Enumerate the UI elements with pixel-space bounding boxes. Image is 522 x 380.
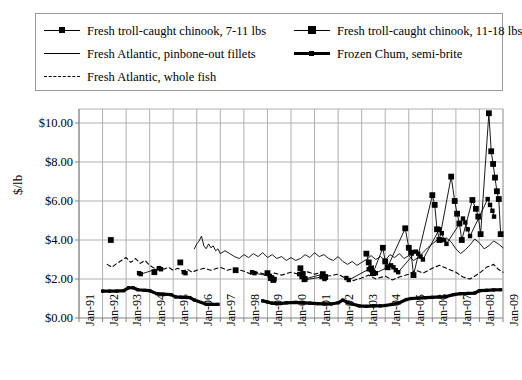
x-tick-label: Jan-08 [484, 294, 496, 326]
y-tick-label: $2.00 [23, 273, 73, 285]
x-tick-label: Jan-98 [249, 294, 261, 326]
x-tick-label: Jan-91 [84, 294, 96, 326]
x-tick-label: Jan-95 [178, 294, 190, 326]
y-tick-label: $6.00 [23, 195, 73, 207]
x-tick-label: Jan-01 [320, 294, 332, 326]
x-tick-label: Jan-09 [508, 294, 520, 326]
x-tick-label: Jan-93 [131, 294, 143, 326]
x-tick-label: Jan-99 [272, 294, 284, 326]
x-tick-label: Jan-05 [414, 294, 426, 326]
x-tick-label: Jan-97 [225, 294, 237, 326]
x-tick-label: Jan-04 [390, 294, 402, 326]
y-tick-label: $0.00 [23, 312, 73, 324]
y-tick-label: $8.00 [23, 156, 73, 168]
x-tick-label: Jan-06 [437, 294, 449, 326]
x-tick-label: Jan-00 [296, 294, 308, 326]
x-tick-label: Jan-94 [155, 294, 167, 326]
x-tick-label: Jan-92 [108, 294, 120, 326]
y-tick-label: $10.00 [23, 117, 73, 129]
x-tick-label: Jan-96 [202, 294, 214, 326]
y-tick-label: $4.00 [23, 234, 73, 246]
x-tick-label: Jan-03 [367, 294, 379, 326]
x-tick-label: Jan-07 [461, 294, 473, 326]
x-tick-label: Jan-02 [343, 294, 355, 326]
